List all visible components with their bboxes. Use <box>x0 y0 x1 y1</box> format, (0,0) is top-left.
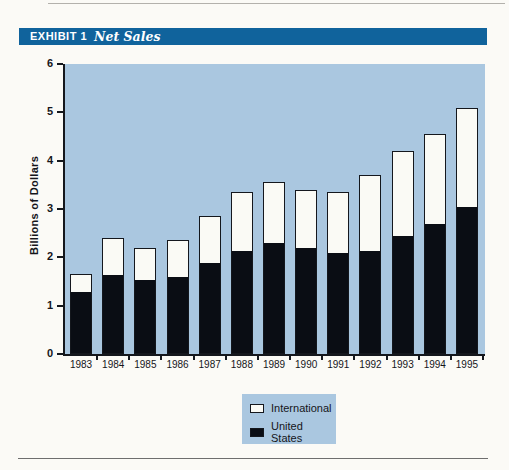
x-tick-4 <box>193 356 195 360</box>
bottom-rule <box>18 458 488 459</box>
x-label-1983: 1983 <box>64 359 98 371</box>
y-tick-1 <box>57 305 63 307</box>
bar-1995 <box>456 108 478 355</box>
legend-swatch-united-states <box>250 428 264 437</box>
exhibit-header-bar: EXHIBIT 1 Net Sales <box>19 28 487 45</box>
bar-1984 <box>102 238 124 354</box>
bar-1990-united-states-segment <box>296 248 316 353</box>
y-tick-label-4: 4 <box>26 153 53 168</box>
x-label-1988: 1988 <box>225 359 259 371</box>
bar-1986 <box>167 240 189 354</box>
bar-1987-united-states-segment <box>200 263 220 353</box>
legend-row-international: International <box>250 402 336 414</box>
bar-1987 <box>199 216 221 354</box>
bar-1985 <box>134 248 156 354</box>
y-tick-0 <box>57 353 63 355</box>
exhibit-page: EXHIBIT 1 Net Sales Billions of Dollars … <box>0 0 509 470</box>
bar-1985-united-states-segment <box>135 280 155 353</box>
bar-1992-united-states-segment <box>360 251 380 353</box>
x-label-1984: 1984 <box>96 359 130 371</box>
exhibit-title: Net Sales <box>94 31 160 43</box>
exhibit-label: EXHIBIT 1 <box>30 31 87 42</box>
bar-1988 <box>231 192 253 354</box>
y-tick-label-2: 2 <box>26 249 53 264</box>
bar-1990 <box>295 190 317 354</box>
x-tick-11 <box>418 356 420 360</box>
bar-1991-united-states-segment <box>328 253 348 353</box>
plot-area <box>63 64 485 356</box>
x-label-1995: 1995 <box>450 359 484 371</box>
x-label-1991: 1991 <box>321 359 355 371</box>
x-label-1986: 1986 <box>161 359 195 371</box>
y-tick-label-5: 5 <box>26 104 53 119</box>
y-tick-2 <box>57 256 63 258</box>
bar-1988-united-states-segment <box>232 251 252 353</box>
x-label-1989: 1989 <box>257 359 291 371</box>
bar-1983-united-states-segment <box>71 292 91 353</box>
y-tick-3 <box>57 208 63 210</box>
x-tick-9 <box>353 356 355 360</box>
legend-label-united-states: United States <box>271 420 336 444</box>
y-tick-4 <box>57 160 63 162</box>
legend-row-united-states: United States <box>250 420 336 444</box>
legend-swatch-international <box>250 404 264 413</box>
y-tick-5 <box>57 111 63 113</box>
x-tick-end <box>482 356 484 360</box>
y-tick-6 <box>57 63 63 65</box>
x-tick-10 <box>386 356 388 360</box>
x-label-1990: 1990 <box>289 359 323 371</box>
bar-1992 <box>359 175 381 354</box>
x-tick-6 <box>257 356 259 360</box>
x-tick-7 <box>289 356 291 360</box>
y-tick-label-6: 6 <box>26 56 53 71</box>
bar-1995-united-states-segment <box>457 207 477 353</box>
y-tick-label-1: 1 <box>26 298 53 313</box>
y-tick-label-3: 3 <box>26 201 53 216</box>
bar-1986-united-states-segment <box>168 277 188 353</box>
bar-1984-united-states-segment <box>103 275 123 353</box>
x-tick-2 <box>128 356 130 360</box>
x-label-1992: 1992 <box>353 359 387 371</box>
x-label-1985: 1985 <box>128 359 162 371</box>
x-tick-1 <box>96 356 98 360</box>
x-tick-3 <box>160 356 162 360</box>
bar-1991 <box>327 192 349 354</box>
bar-1993-united-states-segment <box>393 236 413 353</box>
bar-1983 <box>70 274 92 354</box>
x-label-1994: 1994 <box>418 359 452 371</box>
bar-1994 <box>424 134 446 354</box>
bar-1989 <box>263 182 285 354</box>
y-tick-label-0: 0 <box>26 346 53 361</box>
bar-1994-united-states-segment <box>425 224 445 353</box>
legend: InternationalUnited States <box>242 394 336 444</box>
top-rule <box>48 3 505 4</box>
bar-1993 <box>392 151 414 354</box>
x-label-1993: 1993 <box>386 359 420 371</box>
x-tick-5 <box>225 356 227 360</box>
x-tick-8 <box>321 356 323 360</box>
bar-1989-united-states-segment <box>264 243 284 353</box>
x-label-1987: 1987 <box>193 359 227 371</box>
legend-label-international: International <box>271 402 332 414</box>
x-tick-12 <box>450 356 452 360</box>
